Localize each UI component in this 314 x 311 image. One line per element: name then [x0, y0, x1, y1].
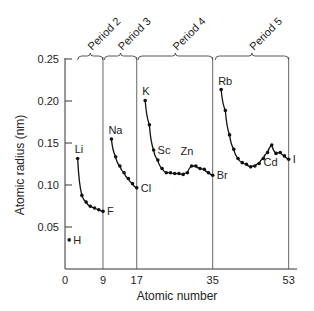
data-point: [207, 171, 211, 175]
series-line: [221, 90, 289, 167]
data-point: [101, 210, 105, 214]
period-label: Period 4: [170, 15, 207, 52]
data-point: [224, 109, 228, 113]
period-braces: Period 2Period 3Period 4Period 5: [78, 15, 289, 60]
data-point: [202, 168, 206, 172]
x-tick-label: 35: [207, 274, 219, 286]
element-label-sc: Sc: [158, 144, 171, 156]
data-point: [80, 194, 84, 198]
data-point: [110, 137, 114, 141]
data-point: [118, 164, 122, 168]
data-point: [236, 157, 240, 161]
element-label-na: Na: [108, 124, 123, 136]
data-point: [135, 186, 139, 190]
data-point: [211, 173, 215, 177]
element-label-k: K: [142, 85, 150, 97]
data-point: [287, 157, 291, 161]
data-point: [131, 182, 135, 186]
y-tick-label: 0.25: [38, 53, 59, 65]
data-point: [283, 154, 287, 158]
element-label-cd: Cd: [264, 156, 278, 168]
x-tick-label: 0: [62, 274, 68, 286]
data-point: [152, 148, 156, 152]
element-label-h: H: [73, 234, 81, 246]
data-point: [228, 133, 232, 137]
element-label-cl: Cl: [141, 182, 151, 194]
y-tick-label: 0.10: [38, 179, 59, 191]
data-point: [76, 157, 80, 161]
element-label-br: Br: [217, 169, 228, 181]
data-point: [173, 172, 177, 176]
data-point: [122, 171, 126, 175]
period-brace: [78, 53, 103, 60]
data-point: [156, 158, 160, 162]
element-label-i: I: [293, 153, 296, 165]
series-line: [145, 100, 213, 175]
data-point: [67, 238, 71, 242]
data-point: [270, 143, 274, 147]
data-series: [67, 88, 290, 242]
data-point: [257, 162, 261, 166]
data-point: [160, 167, 164, 171]
period-label: Period 3: [115, 15, 152, 52]
data-point: [89, 205, 93, 209]
period-brace: [215, 53, 288, 60]
axes: 0.050.100.150.200.2509173553: [38, 53, 297, 286]
period-brace: [138, 53, 213, 60]
data-point: [194, 164, 198, 168]
x-tick-label: 53: [283, 274, 295, 286]
atomic-radius-chart: 0.050.100.150.200.2509173553 Period 2Per…: [0, 0, 314, 311]
data-point: [93, 206, 97, 210]
data-point: [240, 161, 244, 165]
data-point: [127, 177, 131, 181]
data-point: [190, 164, 194, 168]
data-point: [177, 172, 181, 176]
element-label-f: F: [107, 205, 114, 217]
element-label-li: Li: [75, 143, 84, 155]
y-axis-title: Atomic radius (nm): [13, 115, 27, 216]
data-point: [219, 88, 223, 92]
data-point: [232, 147, 236, 151]
y-tick-label: 0.05: [38, 221, 59, 233]
element-labels: HLiFNaClKScZnBrRbCdI: [73, 75, 296, 246]
data-point: [249, 165, 253, 169]
data-point: [84, 200, 88, 204]
period-brace: [104, 53, 136, 60]
data-point: [253, 164, 257, 168]
x-tick-label: 17: [131, 274, 143, 286]
y-tick-label: 0.20: [38, 95, 59, 107]
element-label-zn: Zn: [181, 145, 194, 157]
data-point: [114, 155, 118, 159]
data-point: [278, 151, 282, 155]
data-point: [169, 171, 173, 175]
data-point: [181, 173, 185, 177]
data-point: [198, 167, 202, 171]
series-line: [111, 139, 136, 188]
x-tick-label: 9: [100, 274, 106, 286]
data-point: [97, 208, 101, 212]
data-point: [245, 163, 249, 167]
data-point: [164, 171, 168, 175]
y-tick-label: 0.15: [38, 137, 59, 149]
data-point: [266, 151, 270, 155]
data-point: [186, 171, 190, 175]
element-label-rb: Rb: [218, 75, 232, 87]
data-point: [148, 123, 152, 127]
series-line: [78, 158, 103, 211]
x-axis-title: Atomic number: [137, 289, 218, 303]
period-label: Period 5: [247, 15, 284, 52]
data-point: [143, 99, 147, 103]
